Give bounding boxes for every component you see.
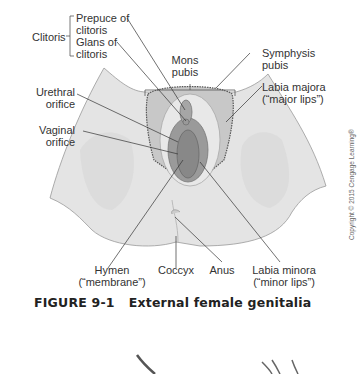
label-prepuce-1: Prepuce of <box>76 12 129 24</box>
label-clitoris: Clitoris <box>32 31 66 43</box>
label-mons-1: Mons <box>163 54 207 66</box>
label-prepuce-2: clitoris <box>76 24 107 36</box>
copyright-notice: Copyright © 2015 Cengage Learning® <box>348 129 355 240</box>
label-vaginal-2: orifice <box>20 136 75 148</box>
label-hymen-1: Hymen <box>72 264 152 276</box>
label-mons-2: pubis <box>163 66 207 78</box>
label-labia-majora-1: Labia majora <box>262 81 326 93</box>
label-labia-majora-2: (“major lips”) <box>262 93 324 105</box>
label-hymen-2: (“membrane”) <box>72 276 152 288</box>
label-symphysis-1: Symphysis <box>262 47 315 59</box>
figure-number: FIGURE 9-1 <box>34 295 115 310</box>
label-labia-minora-2: (“minor lips”) <box>244 276 324 288</box>
label-glans-1: Glans of <box>76 36 117 48</box>
label-labia-minora-1: Labia minora <box>244 264 324 276</box>
label-anus: Anus <box>204 264 240 276</box>
figure-title: External female genitalia <box>129 295 312 310</box>
label-urethral-2: orifice <box>20 98 75 110</box>
figure-caption: FIGURE 9-1External female genitalia <box>34 295 311 310</box>
label-coccyx: Coccyx <box>154 264 198 276</box>
label-glans-2: clitoris <box>76 48 107 60</box>
label-vaginal-1: Vaginal <box>20 124 75 136</box>
label-urethral-1: Urethral <box>20 86 75 98</box>
label-symphysis-2: pubis <box>262 59 288 71</box>
